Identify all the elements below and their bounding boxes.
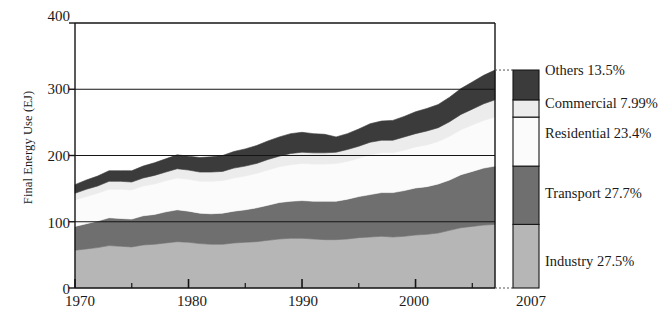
legend-swatch-bar <box>513 70 539 288</box>
stacked-area-chart-figure: Final Energy Use (EJ) 400 300 200 100 0 … <box>0 0 670 320</box>
legend-swatch-industry[interactable] <box>513 224 539 288</box>
legend-swatch-residential[interactable] <box>513 117 539 166</box>
legend-item-commercial[interactable]: Commercial 7.99% <box>545 95 658 111</box>
legend-item-industry[interactable]: Industry 27.5% <box>545 253 634 269</box>
legend-connector-dashed-lines <box>495 70 513 288</box>
legend-swatch-commercial[interactable] <box>513 100 539 117</box>
legend-item-residential[interactable]: Residential 23.4% <box>545 125 651 141</box>
stacked-areas-group <box>75 70 495 288</box>
legend: Others 13.5% Commercial 7.99% Residentia… <box>545 0 670 320</box>
legend-swatch-others[interactable] <box>513 70 539 100</box>
legend-item-others[interactable]: Others 13.5% <box>545 62 625 78</box>
legend-item-transport[interactable]: Transport 27.7% <box>545 185 642 201</box>
legend-swatch-transport[interactable] <box>513 166 539 224</box>
